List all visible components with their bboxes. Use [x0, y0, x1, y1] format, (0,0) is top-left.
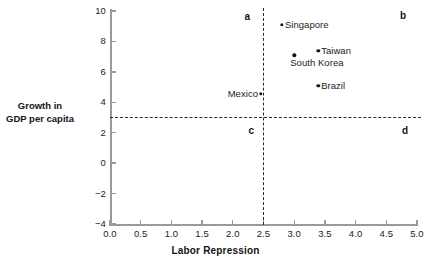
y-tick [111, 223, 116, 224]
data-point-label: Taiwan [321, 45, 351, 56]
x-tick-label: 0.0 [95, 228, 125, 239]
y-tick [111, 10, 116, 11]
y-tick-label: 8 [80, 35, 106, 46]
y-tick [111, 193, 116, 194]
x-tick-label: 2.5 [249, 228, 279, 239]
y-tick-label: 4 [80, 96, 106, 107]
chart-figure: 1086420−2−4 0.00.51.01.52.02.53.03.54.04… [0, 0, 431, 266]
data-point-label: Mexico [228, 88, 258, 99]
data-point-label: Singapore [285, 19, 329, 30]
y-tick-label: 6 [80, 66, 106, 77]
x-tick-label: 0.5 [126, 228, 156, 239]
data-point [316, 49, 319, 52]
x-tick [109, 220, 110, 225]
x-tick [171, 220, 172, 225]
y-tick [111, 102, 116, 103]
y-tick [111, 41, 116, 42]
x-tick [416, 220, 417, 225]
y-tick-label: 0 [80, 157, 106, 168]
x-tick-label: 1.5 [187, 228, 217, 239]
y-axis-title: Growth in GDP per capita [2, 100, 78, 125]
x-tick [355, 220, 356, 225]
x-tick [324, 220, 325, 225]
quadrant-label-d: d [402, 125, 408, 136]
x-tick-label: 3.5 [310, 228, 340, 239]
x-tick-label: 3.0 [279, 228, 309, 239]
quadrant-label-c: c [249, 125, 255, 136]
x-tick [386, 220, 387, 225]
x-tick [140, 220, 141, 225]
x-tick-label: 2.0 [218, 228, 248, 239]
y-tick-label: −2 [80, 188, 106, 199]
x-tick-label: 4.5 [371, 228, 401, 239]
y-tick-label: 2 [80, 127, 106, 138]
x-tick-label: 1.0 [156, 228, 186, 239]
y-tick [111, 71, 116, 72]
reference-line-horizontal [110, 117, 421, 118]
quadrant-label-b: b [400, 10, 406, 21]
y-tick-label: 10 [80, 5, 106, 16]
x-tick [201, 220, 202, 225]
data-point-label: Brazil [321, 80, 345, 91]
data-point-label: South Korea [290, 57, 343, 68]
y-tick [111, 162, 116, 163]
y-axis-title-line-1: Growth in [2, 100, 78, 113]
data-point [316, 84, 319, 87]
y-tick [111, 132, 116, 133]
data-point [280, 23, 283, 26]
y-axis-title-line-2: GDP per capita [2, 113, 78, 126]
quadrant-label-a: a [245, 11, 251, 22]
x-tick-label: 5.0 [402, 228, 431, 239]
x-axis-title: Labor Repression [0, 245, 431, 256]
x-tick-label: 4.0 [341, 228, 371, 239]
x-tick [232, 220, 233, 225]
x-tick [294, 220, 295, 225]
